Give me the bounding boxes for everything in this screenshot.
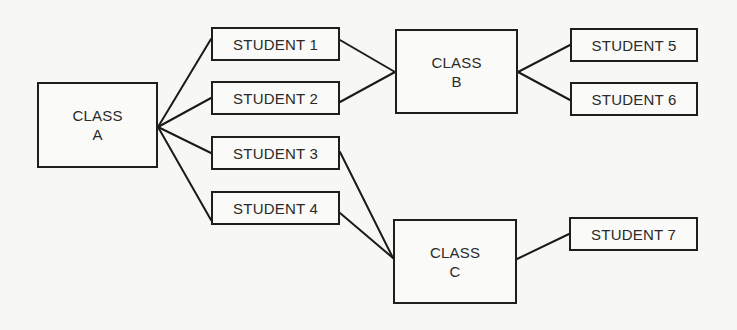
edge-class_c-to-student_7 [517, 234, 569, 259]
node-student-4: STUDENT 4 [211, 191, 340, 225]
node-label: CLASS B [431, 53, 481, 91]
node-label: STUDENT 1 [233, 35, 318, 54]
node-label: STUDENT 2 [233, 89, 318, 108]
node-class-a: CLASS A [37, 82, 158, 168]
edge-student_1-to-class_b [340, 40, 395, 72]
edge-class_a-to-student_1 [158, 39, 211, 127]
node-class-c: CLASS C [393, 219, 517, 304]
node-label: STUDENT 3 [233, 144, 318, 163]
node-student-1: STUDENT 1 [211, 27, 340, 61]
node-label: STUDENT 7 [591, 225, 676, 244]
node-label: CLASS C [430, 243, 480, 281]
edge-class_b-to-student_5 [518, 45, 570, 72]
node-student-6: STUDENT 6 [570, 82, 698, 116]
node-student-2: STUDENT 2 [211, 81, 340, 115]
node-label: STUDENT 4 [233, 199, 318, 218]
edge-class_b-to-student_6 [518, 72, 570, 100]
node-student-3: STUDENT 3 [211, 136, 340, 170]
edge-student_4-to-class_c [340, 213, 393, 258]
node-label: STUDENT 5 [592, 36, 677, 55]
edge-student_3-to-class_c [340, 152, 393, 258]
class-student-diagram: CLASS A STUDENT 1 STUDENT 2 STUDENT 3 ST… [0, 0, 737, 330]
node-class-b: CLASS B [395, 29, 518, 114]
edge-student_2-to-class_b [340, 72, 395, 102]
node-student-5: STUDENT 5 [570, 28, 698, 62]
node-student-7: STUDENT 7 [569, 217, 698, 251]
node-label: CLASS A [72, 106, 122, 144]
node-label: STUDENT 6 [592, 90, 677, 109]
